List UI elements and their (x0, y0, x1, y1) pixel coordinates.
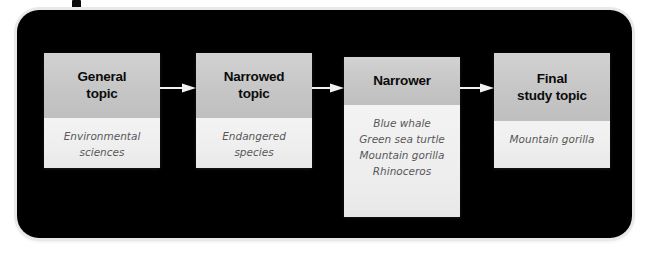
flow-node-final-study-topic: Final study topic Mountain gorilla (494, 53, 610, 168)
node-header-line-1: Narrowed (224, 69, 285, 84)
arrow-general-to-narrowed-icon (160, 80, 197, 96)
node-body-line: species (234, 144, 273, 160)
flow-node-header: Narrowed topic (196, 53, 312, 118)
node-header-line-1: Final (537, 71, 568, 86)
flow-node-header: General topic (44, 53, 160, 118)
diagram-panel: General topic Environmental sciences Nar… (17, 10, 632, 238)
node-body-line: Mountain gorilla (510, 131, 595, 147)
node-header-line-1: General (78, 69, 127, 84)
flow-node-body: Endangered species (196, 118, 312, 168)
figure-root: General topic Environmental sciences Nar… (0, 0, 649, 257)
panel-top-notch (72, 0, 81, 10)
flow-node-body: Environmental sciences (44, 118, 160, 168)
node-body-line: Endangered (222, 128, 286, 144)
node-header-line-1: Narrower (373, 72, 431, 89)
arrow-narrower-to-final-icon (460, 80, 495, 96)
node-body-line: Green sea turtle (359, 131, 445, 147)
flow-node-narrower: Narrower Blue whale Green sea turtle Mou… (344, 57, 460, 217)
flow-node-body: Blue whale Green sea turtle Mountain gor… (344, 105, 460, 217)
node-header-line-2: study topic (517, 88, 587, 103)
flow-node-general-topic: General topic Environmental sciences (44, 53, 160, 168)
node-body-line: Blue whale (373, 115, 431, 131)
flow-node-header: Narrower (344, 57, 460, 105)
node-header-line-2: topic (86, 86, 117, 101)
node-body-line: sciences (80, 144, 125, 160)
node-body-line: Environmental (64, 128, 141, 144)
flow-node-body: Mountain gorilla (494, 121, 610, 168)
flow-node-narrowed-topic: Narrowed topic Endangered species (196, 53, 312, 168)
node-body-line: Rhinoceros (373, 163, 431, 179)
flow-node-header: Final study topic (494, 53, 610, 121)
node-header-line-2: topic (238, 86, 269, 101)
arrow-narrowed-to-narrower-icon (312, 80, 345, 96)
node-body-line: Mountain gorilla (360, 147, 445, 163)
flow-container: General topic Environmental sciences Nar… (17, 10, 632, 238)
